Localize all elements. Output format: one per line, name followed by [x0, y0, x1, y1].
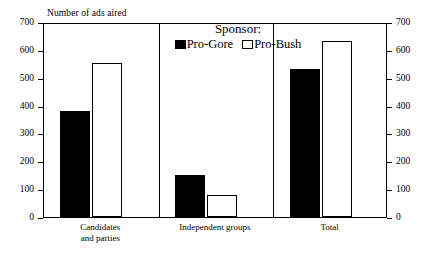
y-axis-label-right: 600	[396, 46, 410, 56]
y-axis-tick-left	[38, 218, 43, 219]
y-axis-tick-right	[387, 162, 392, 163]
x-axis-category-label: Candidates and parties	[43, 222, 158, 243]
y-axis-tick-right	[387, 190, 392, 191]
filled-square-icon	[175, 40, 186, 49]
legend-title: Sponsor:	[148, 22, 328, 36]
y-axis-title: Number of ads aired	[47, 8, 127, 18]
y-axis-label-right: 400	[396, 102, 410, 112]
hollow-square-icon	[242, 40, 253, 49]
y-axis-label-left: 100	[20, 185, 34, 195]
legend: Sponsor: Pro-Gore Pro-Bush	[148, 22, 328, 51]
y-axis-label-left: 300	[20, 129, 34, 139]
y-axis-tick-left	[38, 51, 43, 52]
y-axis-tick-left	[38, 23, 43, 24]
y-axis-tick-right	[387, 218, 392, 219]
legend-item-pro-gore: Pro-Gore	[175, 37, 234, 51]
bar-pro-bush-2	[207, 195, 237, 217]
legend-label-pro-gore: Pro-Gore	[187, 37, 234, 51]
legend-label-pro-bush: Pro-Bush	[254, 37, 301, 51]
y-axis-label-left: 500	[20, 74, 34, 84]
y-axis-tick-left	[38, 134, 43, 135]
bar-pro-bush-3	[322, 41, 352, 217]
y-axis-label-right: 0	[396, 213, 401, 223]
y-axis-label-left: 200	[20, 157, 34, 167]
y-axis-label-right: 700	[396, 18, 410, 28]
x-axis-category-label: Independent groups	[158, 222, 273, 233]
y-axis-tick-right	[387, 107, 392, 108]
y-axis-tick-left	[38, 162, 43, 163]
x-axis-category-label: Total	[272, 222, 387, 233]
y-axis-label-left: 600	[20, 46, 34, 56]
y-axis-tick-right	[387, 134, 392, 135]
y-axis-tick-right	[387, 51, 392, 52]
y-axis-label-left: 700	[20, 18, 34, 28]
category-separator	[159, 24, 160, 217]
bar-pro-gore-2	[175, 175, 205, 217]
bar-chart: Number of ads aired 00100100200200300300…	[0, 0, 431, 259]
y-axis-label-right: 100	[396, 185, 410, 195]
y-axis-label-right: 300	[396, 129, 410, 139]
y-axis-label-left: 400	[20, 102, 34, 112]
y-axis-label-right: 500	[396, 74, 410, 84]
legend-entries: Pro-Gore Pro-Bush	[148, 37, 328, 51]
y-axis-tick-right	[387, 79, 392, 80]
bar-pro-gore-3	[290, 69, 320, 217]
y-axis-tick-left	[38, 107, 43, 108]
category-separator	[273, 24, 274, 217]
bar-pro-gore-1	[60, 111, 90, 217]
y-axis-label-left: 0	[29, 213, 34, 223]
bar-pro-bush-1	[92, 63, 122, 217]
y-axis-tick-right	[387, 23, 392, 24]
y-axis-tick-left	[38, 190, 43, 191]
y-axis-label-right: 200	[396, 157, 410, 167]
y-axis-tick-left	[38, 79, 43, 80]
legend-item-pro-bush: Pro-Bush	[242, 37, 301, 51]
plot-area	[43, 23, 387, 218]
